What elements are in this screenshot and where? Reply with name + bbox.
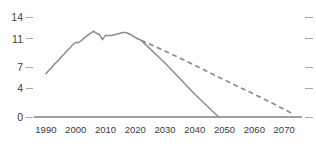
x-tick-label: 2060 bbox=[244, 124, 265, 135]
chart-container: 0471114 19902000201020202030204020502060… bbox=[0, 0, 316, 146]
y-axis-tick-marks bbox=[26, 18, 33, 117]
y-tick-label: 14 bbox=[11, 11, 23, 23]
x-tick-label: 2040 bbox=[184, 124, 205, 135]
x-tick-label: 2000 bbox=[65, 124, 86, 135]
x-tick-label: 2020 bbox=[125, 124, 146, 135]
line-chart: 0471114 19902000201020202030204020502060… bbox=[0, 0, 316, 146]
right-axis-tick-marks bbox=[305, 18, 313, 117]
x-tick-label: 2070 bbox=[274, 124, 295, 135]
x-axis-tick-labels: 199020002010202020302040205020602070 bbox=[35, 124, 294, 135]
y-tick-label: 11 bbox=[12, 33, 23, 45]
x-tick-label: 2030 bbox=[154, 124, 175, 135]
x-tick-label: 2050 bbox=[214, 124, 235, 135]
x-tick-label: 1990 bbox=[35, 124, 56, 135]
series-line-dashed bbox=[141, 40, 293, 114]
y-tick-label: 7 bbox=[17, 61, 23, 73]
y-tick-label: 0 bbox=[17, 111, 23, 123]
y-axis-tick-labels: 0471114 bbox=[11, 11, 23, 122]
series-line-solid bbox=[46, 31, 219, 117]
y-tick-label: 4 bbox=[17, 82, 23, 94]
x-tick-label: 2010 bbox=[95, 124, 116, 135]
